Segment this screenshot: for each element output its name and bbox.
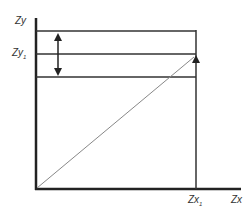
diagram-canvas: [0, 0, 249, 214]
x-axis-label: Zx: [231, 195, 242, 205]
x-tick-label: Zx1: [188, 195, 202, 207]
y-axis-label: Zy: [15, 16, 26, 26]
y-tick-label: Zy1: [12, 48, 26, 60]
up-arrow-icon: [192, 55, 200, 63]
